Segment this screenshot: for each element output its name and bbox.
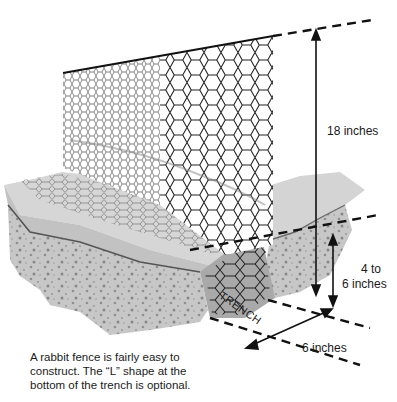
caption-line-1: A rabbit fence is fairly easy to [30,350,250,364]
height-dimension-label: 18 inches [327,124,378,138]
width-dimension-label: 6 inches [302,341,347,355]
depth-dimension-label-line2: 6 inches [342,277,387,291]
caption-line-3: bottom of the trench is optional. [30,378,250,392]
depth-dimension-label: 4 to [356,262,386,276]
depth-label-line1: 4 to [356,262,386,276]
caption-line-2: construct. The “L” shape at the [30,364,250,378]
figure-caption: A rabbit fence is fairly easy to constru… [30,350,250,392]
